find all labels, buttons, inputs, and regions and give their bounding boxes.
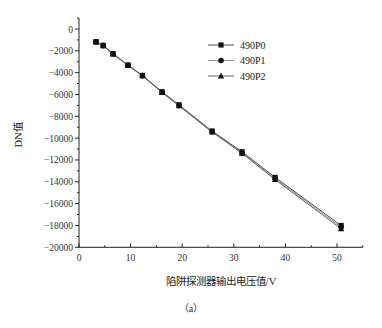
y-tick-label: −10000 <box>44 134 73 144</box>
x-tick-label: 0 <box>77 253 82 263</box>
legend: 490P0490P1490P2 <box>208 40 266 82</box>
x-tick-label: 10 <box>126 253 136 263</box>
legend-label: 490P2 <box>240 71 266 82</box>
y-tick-label: −6000 <box>49 90 74 100</box>
y-tick-label: −14000 <box>44 177 73 187</box>
line-chart: 0−2000−4000−6000−8000−10000−12000−14000−… <box>0 0 382 300</box>
y-tick-label: −20000 <box>44 243 73 253</box>
circle-marker <box>218 58 224 64</box>
square-marker <box>218 42 223 47</box>
x-axis-title: 陷阱探测器输出电压值/V <box>166 275 277 287</box>
y-tick-label: −2000 <box>49 46 74 56</box>
y-tick-label: −12000 <box>44 155 73 165</box>
series-490P1 <box>96 42 341 227</box>
series-layer <box>93 39 345 231</box>
x-tick-label: 30 <box>229 253 239 263</box>
y-axis-title: DN值 <box>12 121 24 147</box>
y-tick-label: −16000 <box>44 199 73 209</box>
triangle-marker <box>218 73 224 79</box>
y-tick-label: 0 <box>68 25 73 35</box>
x-tick-label: 40 <box>281 253 291 263</box>
y-tick-label: −18000 <box>44 221 73 231</box>
legend-item-490P0: 490P0 <box>208 40 266 51</box>
series-line <box>96 42 341 227</box>
x-tick-label: 50 <box>332 253 342 263</box>
x-tick-label: 20 <box>177 253 187 263</box>
y-tick-label: −4000 <box>49 68 74 78</box>
markers-490P2 <box>93 39 345 231</box>
figure-caption: （a） <box>0 300 382 315</box>
y-tick-label: −8000 <box>49 112 74 122</box>
legend-item-490P1: 490P1 <box>208 55 266 66</box>
legend-label: 490P0 <box>240 40 266 51</box>
legend-item-490P2: 490P2 <box>208 71 266 82</box>
legend-label: 490P1 <box>240 55 266 66</box>
axes: 0−2000−4000−6000−8000−10000−12000−14000−… <box>44 18 363 263</box>
